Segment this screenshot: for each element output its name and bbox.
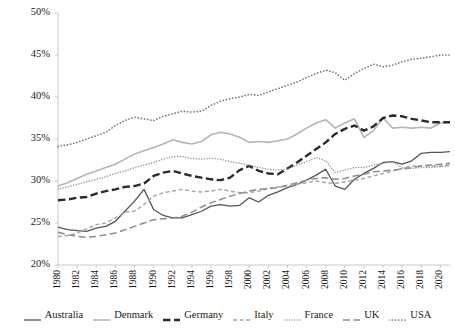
- x-axis-tick-label: 1982: [72, 270, 82, 289]
- x-axis-tick-label: 2010: [340, 270, 350, 289]
- y-axis-tick-label: 30%: [10, 175, 50, 186]
- x-axis-tick-label: 2004: [282, 270, 292, 289]
- x-axis-tick-label: 2002: [263, 270, 273, 289]
- legend-label: UK: [364, 309, 379, 320]
- legend-label: Italy: [254, 309, 273, 320]
- x-axis-tick-label: 1980: [53, 270, 63, 289]
- x-axis-tick-label: 1984: [91, 270, 101, 289]
- chart-legend: AustraliaDenmarkGermanyItalyFranceUKUSA: [0, 303, 455, 325]
- legend-item-usa[interactable]: USA: [389, 309, 431, 320]
- legend-label: France: [305, 309, 334, 320]
- x-axis-tick-label: 2018: [416, 270, 426, 289]
- y-axis-tick-label: 35%: [10, 133, 50, 144]
- legend-swatch-icon: [233, 310, 250, 319]
- y-axis-tick-label: 45%: [10, 49, 50, 60]
- line-chart: 50%45%40%35%30%25%20% 198019821984198619…: [0, 0, 455, 328]
- x-axis-tick-label: 2008: [321, 270, 331, 289]
- x-axis-tick-label: 2006: [302, 270, 312, 289]
- x-axis-tick-label: 1994: [187, 270, 197, 289]
- legend-item-denmark[interactable]: Denmark: [93, 309, 153, 320]
- x-axis-tick-label: 2014: [378, 270, 388, 289]
- x-axis-tick-label: 2000: [244, 270, 254, 289]
- legend-item-france[interactable]: France: [284, 309, 334, 320]
- legend-label: USA: [410, 309, 431, 320]
- y-axis-tick-label: 25%: [10, 217, 50, 228]
- legend-label: Australia: [45, 309, 84, 320]
- series-line-germany: [58, 115, 450, 200]
- legend-swatch-icon: [343, 310, 360, 319]
- y-axis-tick-label: 50%: [10, 7, 50, 18]
- y-axis-tick-label: 40%: [10, 91, 50, 102]
- legend-label: Germany: [184, 309, 223, 320]
- x-axis-tick-label: 2012: [359, 270, 369, 289]
- legend-label: Denmark: [114, 309, 153, 320]
- legend-swatch-icon: [93, 310, 110, 319]
- series-line-italy: [58, 165, 450, 236]
- legend-swatch-icon: [389, 310, 406, 319]
- legend-swatch-icon: [284, 310, 301, 319]
- x-axis-tick-label: 1992: [168, 270, 178, 289]
- series-line-denmark: [58, 118, 450, 186]
- legend-swatch-icon: [163, 310, 180, 319]
- x-axis-tick-label: 1986: [110, 270, 120, 289]
- x-axis-tick-label: 2016: [397, 270, 407, 289]
- legend-item-australia[interactable]: Australia: [24, 309, 84, 320]
- legend-item-uk[interactable]: UK: [343, 309, 379, 320]
- legend-item-italy[interactable]: Italy: [233, 309, 273, 320]
- y-axis-tick-label: 20%: [10, 259, 50, 270]
- x-axis-tick-label: 1996: [206, 270, 216, 289]
- legend-swatch-icon: [24, 310, 41, 319]
- x-axis-tick-label: 1998: [225, 270, 235, 289]
- x-axis-tick-label: 1988: [129, 270, 139, 289]
- x-axis-tick-label: 1990: [149, 270, 159, 289]
- x-axis-tick-label: 2020: [435, 270, 445, 289]
- legend-item-germany[interactable]: Germany: [163, 309, 223, 320]
- series-line-usa: [58, 55, 450, 147]
